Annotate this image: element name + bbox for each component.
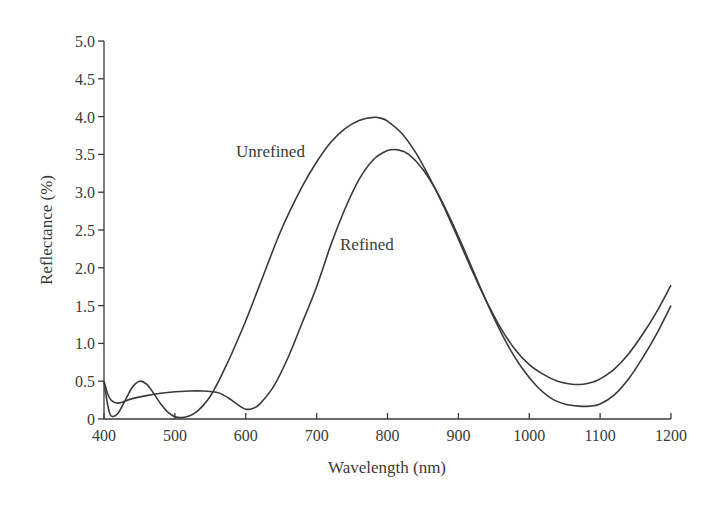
y-axis: 00.51.01.52.02.53.03.54.04.55.0 [75,33,104,428]
y-tick-label: 0.5 [75,373,95,390]
x-tick-label: 1000 [513,427,545,444]
x-tick-label: 500 [163,427,187,444]
annotation-unrefined: Unrefined [236,142,305,161]
x-tick-label: 600 [234,427,258,444]
x-tick-label: 800 [376,427,400,444]
y-tick-label: 2.5 [75,222,95,239]
series-unrefined-line [104,117,671,417]
y-tick-label: 4.5 [75,71,95,88]
y-tick-label: 3.5 [75,146,95,163]
annotation-refined: Refined [340,235,394,254]
y-tick-label: 2.0 [75,260,95,277]
x-tick-label: 400 [92,427,116,444]
reflectance-chart: 00.51.01.52.02.53.03.54.04.55.0 40050060… [0,0,726,509]
y-tick-label: 1.5 [75,298,95,315]
y-tick-label: 4.0 [75,109,95,126]
y-tick-label: 1.0 [75,335,95,352]
series-refined-line [104,149,671,409]
x-axis-title: Wavelength (nm) [328,458,446,477]
chart-canvas: 00.51.01.52.02.53.03.54.04.55.0 40050060… [0,0,726,509]
x-tick-label: 1100 [584,427,615,444]
y-tick-label: 0 [87,411,95,428]
y-tick-label: 3.0 [75,184,95,201]
x-tick-label: 900 [446,427,470,444]
y-axis-title: Reflectance (%) [37,175,56,285]
plot-area [104,117,671,417]
y-tick-label: 5.0 [75,33,95,50]
x-tick-label: 1200 [655,427,687,444]
x-tick-label: 700 [305,427,329,444]
